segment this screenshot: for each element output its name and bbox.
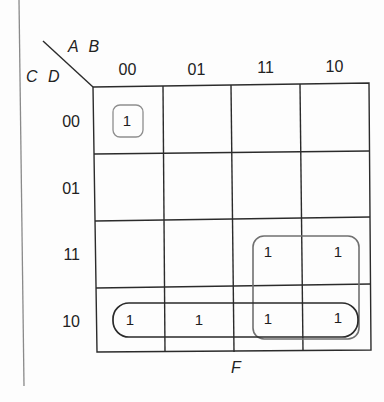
- row-header-10: 10: [40, 313, 80, 331]
- cell-00-00: 1: [117, 112, 137, 130]
- col-header-00: 00: [93, 61, 162, 79]
- cell-11-10: 1: [328, 243, 348, 261]
- row-header-11: 11: [40, 246, 80, 264]
- row-header-01: 01: [40, 180, 80, 198]
- group-loop-row10: [113, 303, 358, 337]
- cell-10-10: 1: [328, 309, 348, 327]
- cell-10-01: 1: [189, 311, 209, 329]
- cell-10-00: 1: [120, 311, 140, 329]
- col-header-11: 11: [231, 59, 300, 77]
- row-variables-label: C D: [26, 68, 63, 86]
- cell-10-11: 1: [258, 310, 278, 328]
- col-header-10: 10: [300, 58, 369, 76]
- cell-11-11: 1: [258, 243, 278, 261]
- row-header-00: 00: [40, 113, 80, 131]
- col-header-01: 01: [162, 61, 231, 79]
- margin-line: [19, 0, 24, 386]
- col-variables-label: A B: [68, 38, 102, 56]
- function-label: F: [231, 359, 241, 377]
